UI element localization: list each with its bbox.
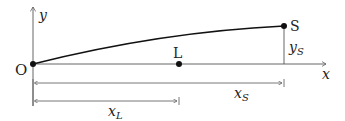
S-point (281, 23, 287, 29)
xS-label: xS (234, 85, 249, 103)
y-axis-label: y (38, 7, 48, 23)
origin-label: O (15, 61, 27, 79)
L-point (176, 61, 182, 67)
trajectory-curve (33, 26, 284, 64)
x-axis-label: x (322, 66, 330, 82)
origin-point (30, 61, 36, 67)
yS-label: yS (288, 39, 304, 57)
diagram: y x O L S yS xS xL (0, 0, 345, 121)
S-label: S (290, 18, 300, 34)
xL-label: xL (108, 103, 123, 121)
L-label: L (173, 45, 182, 61)
